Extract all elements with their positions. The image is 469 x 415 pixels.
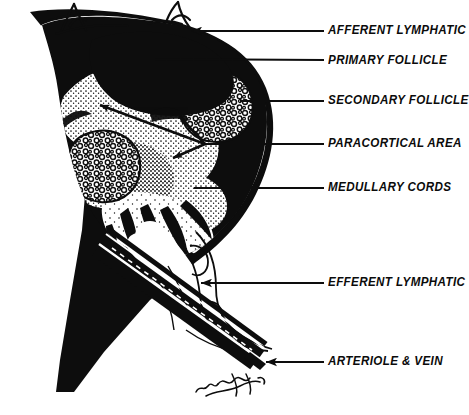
label-secondary-follicle: SECONDARY FOLLICLE [328,93,469,107]
label-medullary-cords: MEDULLARY CORDS [328,180,451,194]
label-paracortical-area: PARACORTICAL AREA [328,136,462,150]
secondary-follicle-2 [68,131,140,202]
label-efferent-lymphatic: EFFERENT LYMPHATIC [328,275,465,289]
label-afferent-lymphatic: AFFERENT LYMPHATIC [328,23,466,37]
artist-signature [196,374,265,396]
label-arteriole-and-vein: ARTERIOLE & VEIN [328,354,443,368]
leader-primary-follicle [154,59,324,60]
label-primary-follicle: PRIMARY FOLLICLE [328,53,447,67]
